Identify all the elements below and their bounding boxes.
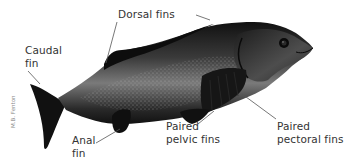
caudal-fin-label-line1: Caudal bbox=[25, 44, 62, 57]
caudal-fin-label-line2: fin bbox=[25, 57, 62, 70]
dorsal-fins-label: Dorsal fins bbox=[118, 8, 175, 21]
anal-fin-label: Anal fin bbox=[72, 134, 96, 159]
pelvic-fins-label-line2: pelvic fins bbox=[166, 133, 220, 146]
pectoral-fins-label-line2: pectoral fins bbox=[277, 133, 343, 146]
photo-credit: M.B. Fenton bbox=[10, 95, 16, 128]
pelvic-fins-label: Paired pelvic fins bbox=[166, 120, 220, 145]
anal-leader-line bbox=[96, 129, 120, 143]
anal-fin-label-line1: Anal bbox=[72, 134, 96, 147]
caudal-fin-label: Caudal fin bbox=[25, 44, 62, 69]
caudal-fin-shape bbox=[30, 84, 66, 149]
pectoral-fins-label: Paired pectoral fins bbox=[277, 120, 343, 145]
anal-fin-label-line2: fin bbox=[72, 147, 96, 160]
caudal-leader-line bbox=[28, 71, 40, 84]
fish-anatomy-diagram: Dorsal fins Caudal fin Anal fin Paired p… bbox=[0, 0, 347, 161]
pectoral-leader-line bbox=[242, 94, 276, 119]
pectoral-fins-label-line1: Paired bbox=[277, 120, 343, 133]
pelvic-fins-label-line1: Paired bbox=[166, 120, 220, 133]
pectoral-fin-shape bbox=[201, 68, 247, 114]
dorsal-leader-line-2 bbox=[196, 15, 210, 20]
anal-fin-shape bbox=[112, 109, 131, 133]
dorsal-fins-label-text: Dorsal fins bbox=[118, 8, 175, 21]
